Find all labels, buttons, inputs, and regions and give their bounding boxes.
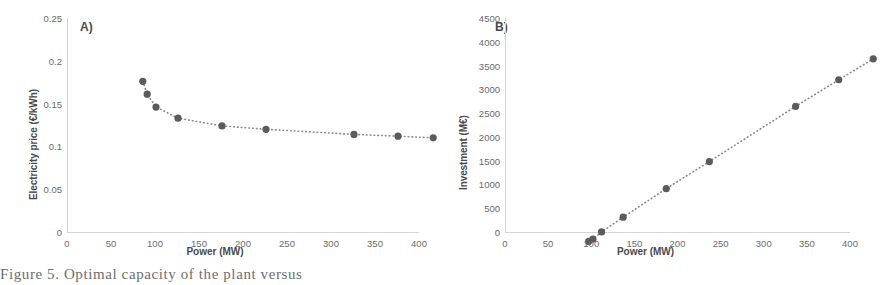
x-axis-title-b: Power (MW) bbox=[430, 246, 861, 257]
y-tick-label: 0.25 bbox=[44, 13, 63, 24]
figure-caption: Figure 5. Optimal capacity of the plant … bbox=[0, 268, 861, 285]
y-tick-label: 0 bbox=[495, 227, 500, 238]
chart-panel-a: Electricity price (€/kWh) A) 00.050.10.1… bbox=[0, 0, 430, 262]
figure-caption-text: Figure 5. Optimal capacity of the plant … bbox=[0, 268, 861, 283]
trendline bbox=[589, 59, 874, 242]
data-point bbox=[152, 103, 159, 110]
plot-area-b bbox=[505, 18, 850, 232]
chart-panel-b: Investment (M€) B) 050010001500200025003… bbox=[430, 0, 861, 262]
y-tick-label: 500 bbox=[484, 203, 500, 214]
y-tick-label: 1000 bbox=[479, 179, 500, 190]
data-point bbox=[394, 133, 401, 140]
y-tick-label: 0.05 bbox=[44, 184, 63, 195]
data-point bbox=[620, 214, 627, 221]
y-tick-label: 3500 bbox=[479, 60, 500, 71]
data-point bbox=[792, 103, 799, 110]
y-tick-label: 4500 bbox=[479, 13, 500, 24]
trendline bbox=[143, 81, 433, 137]
y-tick-label: 2000 bbox=[479, 131, 500, 142]
data-point bbox=[350, 131, 357, 138]
y-tick-label: 0 bbox=[57, 227, 62, 238]
y-axis-title-b: Investment (M€) bbox=[458, 115, 469, 190]
y-tick-label: 4000 bbox=[479, 36, 500, 47]
data-point bbox=[870, 55, 877, 62]
y-tick-label: 3000 bbox=[479, 84, 500, 95]
y-tick-label: 1500 bbox=[479, 155, 500, 166]
y-tick-label: 0.1 bbox=[49, 141, 62, 152]
plot-area-a bbox=[67, 18, 419, 232]
y-tick-label: 0.2 bbox=[49, 55, 62, 66]
data-point bbox=[262, 126, 269, 133]
data-point bbox=[598, 228, 605, 235]
data-point bbox=[706, 158, 713, 165]
data-point bbox=[174, 115, 181, 122]
y-tick-label: 2500 bbox=[479, 108, 500, 119]
data-point bbox=[663, 185, 670, 192]
data-point bbox=[144, 91, 151, 98]
y-tick-label: 0.15 bbox=[44, 98, 63, 109]
x-axis-title-a: Power (MW) bbox=[0, 246, 430, 257]
series-b bbox=[505, 18, 881, 280]
y-axis-title-a: Electricity price (€/kWh) bbox=[28, 89, 39, 200]
data-point bbox=[835, 76, 842, 83]
data-point bbox=[218, 122, 225, 129]
data-point bbox=[139, 78, 146, 85]
